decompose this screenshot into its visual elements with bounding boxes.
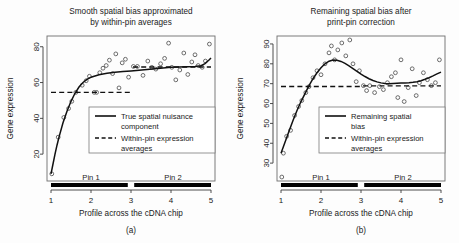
x-tick-label: 3: [359, 196, 364, 205]
panel-title-line1: Smooth spatial bias approximated: [69, 7, 193, 16]
legend-label-line1: Within-pin expression: [121, 134, 194, 143]
legend-label-line1: Within-pin expression: [351, 134, 424, 143]
legend-label-line1: Remaining spatial: [351, 112, 412, 121]
y-tick-label: 60: [32, 78, 41, 87]
x-axis-label: Profile across the cDNA chip: [79, 209, 183, 218]
pin-label: Pin 1: [82, 173, 99, 182]
legend-label-line1: True spatial nuisance: [121, 112, 193, 121]
panel-title-line2: by within-pin averages: [90, 18, 171, 27]
x-tick-label: 3: [129, 196, 134, 205]
panel-title-line1: Remaining spatial bias after: [310, 7, 411, 16]
x-axis-label: Profile across the cDNA chip: [309, 209, 413, 218]
panel-caption: (b): [356, 226, 366, 235]
legend-label-line2: bias: [351, 122, 365, 131]
legend-label-line2: averages: [351, 144, 382, 153]
data-point: [438, 58, 442, 62]
pin-label: Pin 1: [312, 173, 329, 182]
data-point: [114, 52, 118, 56]
y-tick-label: 50: [262, 118, 271, 127]
panel-b: Remaining spatial bias afterprint-pin co…: [230, 0, 459, 243]
data-point: [354, 80, 358, 84]
x-tick-label: 2: [319, 196, 324, 205]
data-point: [167, 41, 171, 45]
panel-a-plot: Smooth spatial bias approximatedby withi…: [0, 0, 229, 243]
data-point: [174, 78, 178, 82]
x-tick-label: 5: [209, 196, 214, 205]
data-point: [178, 68, 182, 72]
data-point: [108, 58, 112, 62]
y-axis-label: Gene expression: [236, 77, 245, 139]
y-tick-label: 80: [32, 42, 41, 51]
x-tick-label: 1: [49, 196, 54, 205]
data-point: [141, 73, 145, 77]
x-tick-label: 1: [279, 196, 284, 205]
y-tick-label: 60: [262, 99, 271, 108]
panel-b-plot: Remaining spatial bias afterprint-pin co…: [230, 0, 459, 243]
data-point: [117, 86, 121, 90]
x-tick-label: 5: [439, 196, 444, 205]
legend-label-line2: averages: [121, 144, 152, 153]
data-point: [146, 59, 150, 63]
data-point: [182, 51, 186, 55]
data-point: [127, 75, 131, 79]
data-point: [186, 73, 190, 77]
data-point: [351, 62, 355, 66]
pin-label: Pin 2: [394, 173, 411, 182]
data-point: [394, 71, 398, 75]
data-point: [193, 53, 197, 57]
data-point: [368, 84, 372, 88]
panel-a: Smooth spatial bias approximatedby withi…: [0, 0, 229, 243]
data-point: [327, 51, 331, 55]
legend-label-line2: component: [121, 122, 159, 131]
data-point: [208, 42, 212, 46]
data-point: [344, 54, 348, 58]
y-axis-label: Gene expression: [6, 77, 15, 139]
data-point: [382, 88, 386, 92]
y-tick-label: 30: [262, 158, 271, 167]
data-point: [396, 96, 400, 100]
data-point: [319, 73, 323, 77]
data-point: [280, 175, 284, 179]
data-point: [434, 81, 438, 85]
data-point: [163, 56, 167, 60]
y-tick-label: 80: [262, 59, 271, 68]
data-point: [159, 62, 163, 66]
data-point: [410, 67, 414, 71]
data-point: [402, 100, 406, 104]
data-point: [340, 41, 344, 45]
pin-label: Pin 2: [164, 173, 181, 182]
y-tick-label: 20: [32, 149, 41, 158]
data-point: [390, 75, 394, 79]
x-tick-label: 2: [89, 196, 94, 205]
x-tick-label: 4: [399, 196, 404, 205]
data-point: [336, 48, 340, 52]
y-tick-label: 70: [262, 79, 271, 88]
y-tick-label: 40: [262, 138, 271, 147]
y-tick-label: 90: [262, 39, 271, 48]
x-tick-label: 4: [169, 196, 174, 205]
panel-caption: (a): [126, 226, 136, 235]
data-point: [348, 38, 352, 42]
figure-root: Smooth spatial bias approximatedby withi…: [0, 0, 459, 243]
data-point: [124, 57, 128, 61]
data-point: [120, 61, 124, 65]
y-tick-label: 40: [32, 113, 41, 122]
data-point: [399, 58, 403, 62]
data-point: [101, 66, 105, 70]
data-point: [422, 71, 426, 75]
data-point: [373, 91, 377, 95]
data-point: [365, 89, 369, 93]
data-point: [414, 94, 418, 98]
panel-title-line2: print-pin correction: [327, 18, 395, 27]
data-point: [190, 60, 194, 64]
data-point: [330, 44, 334, 48]
data-point: [104, 64, 108, 68]
